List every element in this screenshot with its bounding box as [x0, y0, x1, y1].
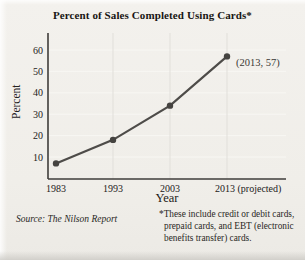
source-note: Source: The Nilson Report — [16, 214, 117, 224]
data-point — [110, 137, 116, 143]
x-axis-label: Year — [48, 191, 286, 206]
footnote: *These include credit or debit cards, pr… — [159, 208, 305, 244]
data-point — [224, 53, 230, 59]
y-tick-label: 10 — [33, 152, 43, 163]
footnote-line: prepaid cards, and EBT (electronic — [164, 220, 305, 232]
y-axis-label: Percent — [9, 103, 23, 119]
point-annotation: (2013, 57) — [236, 57, 280, 69]
data-point — [53, 160, 59, 166]
y-tick-label: 30 — [33, 109, 43, 120]
y-tick-label: 20 — [33, 130, 43, 141]
footnote-text: These include credit or debit cards, — [164, 209, 295, 219]
y-tick-label: 40 — [33, 87, 43, 98]
scan-shadow — [0, 251, 305, 260]
data-point — [167, 102, 173, 108]
footnote-line: benefits transfer) cards. — [164, 232, 305, 244]
y-tick-label: 50 — [33, 66, 43, 77]
chart-panel: Percent of Sales Completed Using Cards* … — [0, 0, 305, 260]
trend-line — [56, 56, 227, 163]
footnote-line: *These include credit or debit cards, — [159, 208, 305, 220]
y-tick-label: 60 — [33, 45, 43, 56]
